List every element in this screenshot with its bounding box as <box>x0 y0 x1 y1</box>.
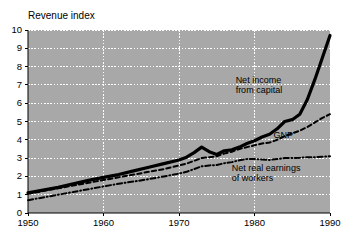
x-tick-label-1990: 1990 <box>319 217 340 228</box>
annotation-1-line1: GNP <box>273 130 293 140</box>
chart-canvas: Revenue index 012345678910 1950196019701… <box>0 0 352 252</box>
chart-title: Revenue index <box>28 10 95 21</box>
x-tick-label-1980: 1980 <box>244 217 265 228</box>
y-tick-label-6: 6 <box>17 97 22 108</box>
y-tick-label-8: 8 <box>17 61 22 72</box>
annotation-2-line1: Net real earnings <box>232 163 301 173</box>
x-tick-label-1960: 1960 <box>93 217 114 228</box>
y-tick-label-5: 5 <box>17 116 22 127</box>
y-tick-label-7: 7 <box>17 79 22 90</box>
y-tick-label-2: 2 <box>17 170 22 181</box>
x-axis-tick-labels: 19501960197019801990 <box>17 217 340 228</box>
y-tick-label-9: 9 <box>17 42 22 53</box>
y-tick-label-1: 1 <box>17 189 22 200</box>
y-tick-label-10: 10 <box>11 24 22 35</box>
annotation-0-line2: from capital <box>236 85 283 95</box>
y-tick-label-3: 3 <box>17 152 22 163</box>
y-axis-tick-labels: 012345678910 <box>11 24 22 218</box>
annotation-0-line1: Net income <box>236 75 282 85</box>
y-tick-label-4: 4 <box>17 134 22 145</box>
annotation-2-line2: of workers <box>232 173 274 183</box>
x-tick-label-1950: 1950 <box>17 217 38 228</box>
x-tick-label-1970: 1970 <box>168 217 189 228</box>
revenue-index-chart: Revenue index 012345678910 1950196019701… <box>0 0 352 252</box>
